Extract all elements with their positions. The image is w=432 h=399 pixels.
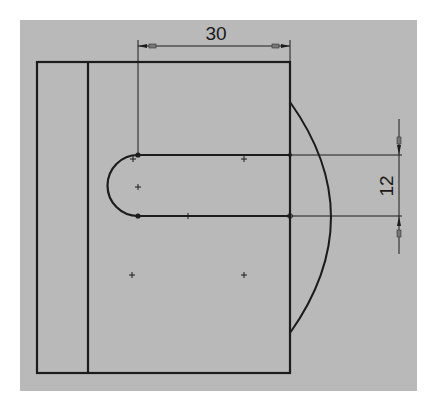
sketch-canvas[interactable]: 30 12: [0, 0, 432, 399]
sketch-background: [20, 20, 417, 391]
dimension-label-12[interactable]: 12: [376, 175, 397, 196]
slot-endpoint[interactable]: [135, 213, 140, 218]
arrow-handle-icon: [272, 44, 279, 48]
arrow-handle-icon: [397, 137, 401, 144]
dimension-label-30[interactable]: 30: [205, 23, 226, 44]
arrow-handle-icon: [149, 44, 156, 48]
arrow-handle-icon: [397, 230, 401, 237]
